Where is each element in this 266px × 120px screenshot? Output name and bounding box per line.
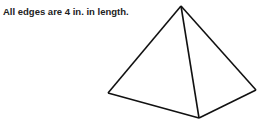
edge-left-front — [108, 93, 199, 118]
edge-front-right — [199, 90, 256, 118]
pyramid-figure — [0, 0, 266, 120]
edge-apex-left — [108, 6, 181, 93]
